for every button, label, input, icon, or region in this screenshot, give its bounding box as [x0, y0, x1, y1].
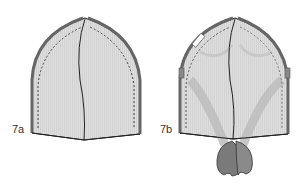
diagram-canvas — [0, 0, 302, 184]
tab-right-7b — [285, 68, 290, 78]
panel-7b — [179, 18, 290, 176]
panel-7a — [32, 18, 140, 140]
panel-label-7b: 7b — [160, 123, 172, 135]
hat-shell-7a — [32, 18, 140, 140]
tab-left-7b — [179, 68, 184, 78]
panel-label-7a: 7a — [12, 123, 24, 135]
